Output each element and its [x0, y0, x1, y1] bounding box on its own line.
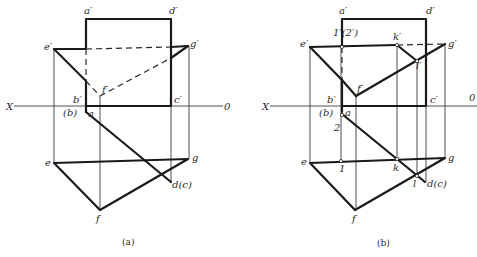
- projection-diagram: X 0 a′ d′ e′ g′ f′ b′ (b) a c′ e g f: [0, 0, 477, 257]
- label-l-prime: l′: [416, 60, 422, 71]
- point-k: [395, 157, 398, 160]
- point-2: [340, 113, 343, 116]
- axis-x-label: X: [261, 101, 270, 112]
- label-g-prime: g′: [448, 38, 457, 49]
- label-1-2-prime: 1′(2′): [333, 27, 358, 38]
- top-a-d: [342, 114, 425, 182]
- label-b: (b): [319, 107, 333, 118]
- label-g: g: [192, 152, 198, 163]
- point-k-prime: [395, 43, 398, 46]
- label-l: l: [413, 178, 416, 189]
- edge-k-g-hidden: [397, 44, 445, 45]
- label-a-prime: a′: [339, 5, 348, 16]
- edge-e-f-hidden: [86, 81, 100, 96]
- label-c-prime: c′: [430, 94, 439, 105]
- point-1-prime: [340, 45, 343, 48]
- label-b-prime: b′: [73, 94, 82, 105]
- edge-f-g: [356, 44, 445, 96]
- label-a: a: [88, 108, 94, 119]
- label-g-prime: g′: [190, 38, 199, 49]
- label-e: e: [45, 157, 51, 168]
- label-f: f: [95, 213, 102, 224]
- label-d-c: d(c): [172, 179, 192, 190]
- edge-e-g-hidden: [86, 47, 171, 49]
- edge-f-g-hidden: [100, 58, 171, 96]
- label-a-prime: a′: [84, 5, 93, 16]
- edge-e-f-visible: [54, 49, 86, 81]
- axis-o-label: 0: [469, 92, 476, 103]
- caption-b: (b): [377, 238, 390, 248]
- axis-x-label: X: [5, 101, 14, 112]
- caption-a: (a): [122, 237, 134, 247]
- edge-e-k-visible: [310, 45, 397, 47]
- label-f-prime: f′: [101, 84, 109, 95]
- label-k-prime: k′: [393, 31, 402, 42]
- rect-front-view: [86, 19, 171, 106]
- label-c-prime: c′: [174, 94, 183, 105]
- label-b-prime: b′: [327, 94, 336, 105]
- label-d-prime: d′: [169, 5, 178, 16]
- label-b: (b): [63, 107, 77, 118]
- label-g: g: [448, 152, 454, 163]
- label-1: 1: [339, 163, 345, 174]
- label-e-prime: e′: [44, 41, 53, 52]
- label-2: 2: [333, 122, 340, 133]
- label-a: a: [345, 107, 351, 118]
- edge-k-l: [397, 45, 417, 61]
- panel-a: X 0 a′ d′ e′ g′ f′ b′ (b) a c′ e g f: [5, 5, 231, 247]
- triangle-top-view: [310, 158, 445, 210]
- axis-o-label: 0: [224, 101, 231, 112]
- label-k: k: [393, 162, 399, 173]
- triangle-top-view: [54, 159, 188, 210]
- panel-b: X 0 a′ d′ 1′(2′) k′: [261, 5, 477, 248]
- edge-e-f-visible: [310, 47, 342, 80]
- top-a-d: [86, 112, 171, 182]
- edge-f-lower: [342, 80, 356, 96]
- label-d-c: d(c): [427, 178, 447, 189]
- label-e: e: [301, 156, 307, 167]
- label-e-prime: e′: [300, 38, 309, 49]
- label-f-prime: f′: [356, 83, 364, 94]
- label-d-prime: d′: [426, 5, 435, 16]
- label-f: f: [351, 213, 358, 224]
